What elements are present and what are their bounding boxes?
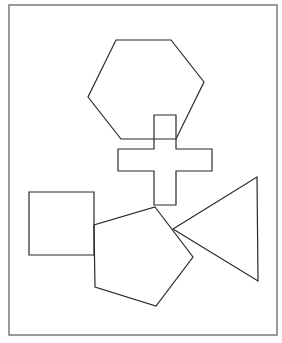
square-shape [29,192,94,255]
pentagon-shape [94,207,193,306]
triangle-shape [173,177,258,281]
shapes-diagram [0,0,282,343]
cross-shape [118,115,212,205]
hexagon-shape [88,40,204,139]
frame-border [9,5,277,335]
